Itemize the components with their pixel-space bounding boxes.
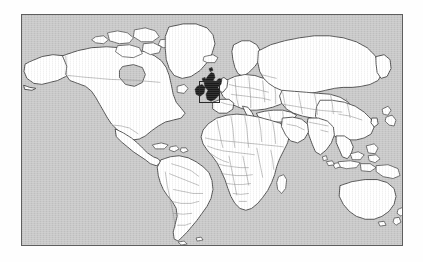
world-map-svg: .land { fill:#ffffff; stroke:#3a3a3a; st… bbox=[22, 15, 402, 245]
locator-highlight-box[interactable] bbox=[199, 81, 220, 103]
world-map-frame: .land { fill:#ffffff; stroke:#3a3a3a; st… bbox=[21, 14, 403, 246]
page-root: .land { fill:#ffffff; stroke:#3a3a3a; st… bbox=[0, 0, 423, 262]
